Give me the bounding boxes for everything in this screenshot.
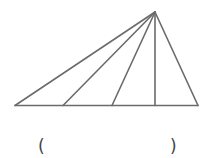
inner-segment-1 <box>63 12 155 106</box>
answer-open-paren: ( <box>38 136 45 156</box>
right-side <box>155 12 198 106</box>
answer-close-paren: ) <box>170 136 177 156</box>
triangle-diagram <box>0 0 204 158</box>
